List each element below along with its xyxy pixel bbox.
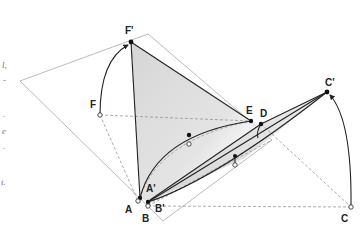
label-B-prime: B'	[155, 203, 165, 214]
point-mid-lower-original	[233, 163, 237, 167]
point-F-prime	[129, 40, 134, 45]
point-C-prime	[325, 90, 330, 95]
margin-fragment-1: l,	[2, 60, 7, 70]
label-E: E	[246, 105, 253, 116]
label-C-prime: C'	[325, 77, 335, 88]
label-A-prime: A'	[146, 183, 156, 194]
folding-diagram: F' F E D C' C A' A B B' l, - . e . t.	[0, 0, 364, 236]
point-C	[349, 205, 353, 209]
margin-fragment-2: -	[3, 75, 6, 85]
point-mid-lower	[233, 154, 237, 158]
margin-fragment-3: .	[3, 109, 5, 119]
point-mid-upper	[187, 133, 191, 137]
point-A	[136, 199, 140, 203]
point-D	[259, 122, 263, 126]
margin-fragment-6: t.	[1, 177, 6, 187]
margin-fragment-4: e	[2, 126, 6, 136]
point-B	[146, 204, 150, 208]
point-mid-upper-original	[187, 142, 191, 146]
label-B: B	[142, 213, 149, 224]
point-E	[249, 119, 253, 123]
point-F	[98, 113, 102, 117]
label-D: D	[260, 108, 267, 119]
arc-F-to-F-prime	[100, 45, 128, 115]
margin-fragment-5: .	[3, 141, 5, 151]
label-F-prime: F'	[125, 25, 134, 36]
label-F: F	[90, 99, 96, 110]
label-A: A	[125, 204, 132, 215]
label-C: C	[341, 213, 348, 224]
